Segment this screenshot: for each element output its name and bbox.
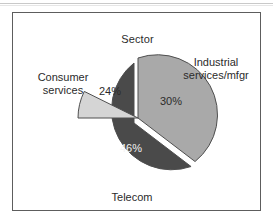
chart-frame: Sector 30% 46% 24% Consumer services Ind… <box>12 12 261 211</box>
page-top-rule <box>0 3 273 4</box>
category-label-consumer-line1: Consumer <box>38 71 89 83</box>
slice-value-industrial: 30% <box>160 95 182 107</box>
category-label-industrial-line1: Industrial <box>194 56 239 68</box>
category-label-telecom: Telecom <box>87 191 177 204</box>
category-label-industrial-services: Industrial services/mfgr <box>173 56 259 82</box>
slice-value-telecom: 46% <box>120 142 142 154</box>
category-label-industrial-line2: services/mfgr <box>183 69 248 81</box>
category-label-consumer-services: Consumer services <box>25 71 101 97</box>
category-label-consumer-line2: services <box>43 84 83 96</box>
slice-value-consumer: 24% <box>99 85 121 97</box>
pie-chart: 30% 46% 24% <box>13 13 262 212</box>
page-top-rule-secondary <box>0 5 273 6</box>
